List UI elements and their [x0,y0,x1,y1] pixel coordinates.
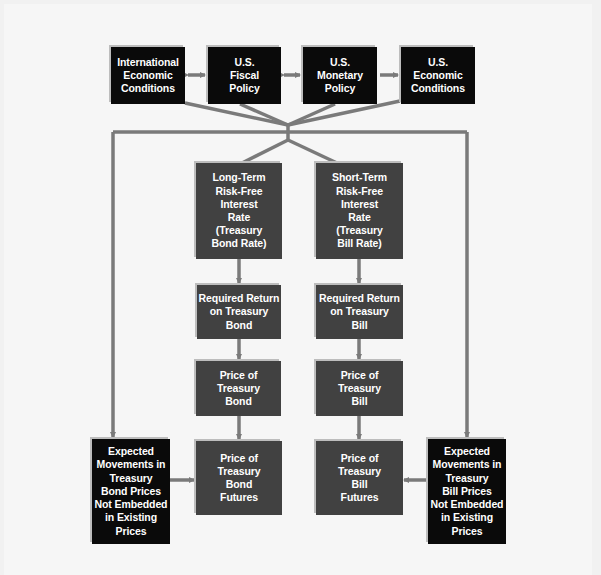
long-term-risk-free-rate-box: Long-Term Risk-Free Interest Rate (Treas… [196,163,282,259]
price-treasury-bill-box: Price of Treasury Bill [316,361,403,416]
international-economic-conditions-box: International Economic Conditions [111,47,185,104]
box-label: U.S. Fiscal Policy [229,56,259,96]
us-economic-conditions-box: U.S. Economic Conditions [401,47,475,104]
us-monetary-policy-box: U.S. Monetary Policy [303,47,377,104]
box-label: Required Return on Treasury Bond [199,292,280,332]
box-label: Required Return on Treasury Bill [319,292,400,332]
box-label: Expected Movements in Treasury Bill Pric… [431,445,504,537]
box-label: Price of Treasury Bill Futures [338,452,381,505]
price-treasury-bond-futures-box: Price of Treasury Bond Futures [196,441,282,515]
box-label: U.S. Economic Conditions [411,56,465,96]
us-fiscal-policy-box: U.S. Fiscal Policy [208,47,281,104]
price-treasury-bill-futures-box: Price of Treasury Bill Futures [316,441,403,515]
connector-lines [0,0,601,575]
box-label: Price of Treasury Bill [338,369,381,409]
box-label: Expected Movements in Treasury Bond Pric… [95,445,168,537]
box-label: Short-Term Risk-Free Interest Rate (Trea… [332,171,387,250]
box-label: Price of Treasury Bond Futures [218,452,261,505]
expected-bill-movements-box: Expected Movements in Treasury Bill Pric… [428,439,506,544]
required-return-bill-box: Required Return on Treasury Bill [316,285,403,339]
box-label: Price of Treasury Bond [217,369,260,409]
price-treasury-bond-box: Price of Treasury Bond [196,361,281,416]
required-return-bond-box: Required Return on Treasury Bond [197,285,281,339]
box-label: Long-Term Risk-Free Interest Rate (Treas… [212,171,267,250]
expected-bond-movements-box: Expected Movements in Treasury Bond Pric… [92,439,170,544]
short-term-risk-free-rate-box: Short-Term Risk-Free Interest Rate (Trea… [316,163,403,259]
box-label: International Economic Conditions [117,56,179,96]
box-label: U.S. Monetary Policy [317,56,363,96]
